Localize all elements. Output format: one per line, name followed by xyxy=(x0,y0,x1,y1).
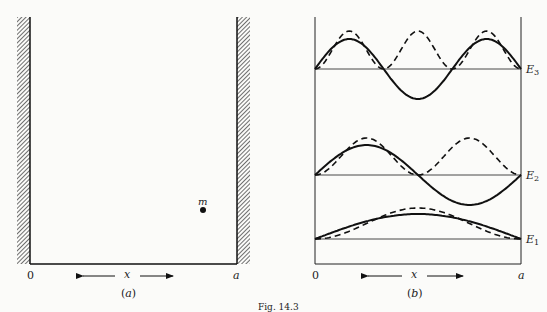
probability-e1 xyxy=(315,208,521,239)
probability-e3 xyxy=(315,31,521,69)
panel-a-caption: (a) xyxy=(121,288,136,299)
level-e1-label: E1 xyxy=(526,234,539,247)
panel-b-levels xyxy=(315,17,521,276)
panel-b-width-label: a xyxy=(518,270,525,281)
panel-a-well xyxy=(17,17,250,276)
panel-b-caption: (b) xyxy=(407,288,423,299)
right-wall-hatch xyxy=(237,17,250,264)
panel-a-x-label: x xyxy=(124,269,130,280)
panel-a-width-label: a xyxy=(233,270,240,281)
particle-dot xyxy=(200,207,206,213)
panel-b-origin-label: 0 xyxy=(312,270,319,281)
level-e3-label: E3 xyxy=(526,64,539,77)
particle-label: m xyxy=(198,197,207,207)
wavefunction-e1 xyxy=(315,214,521,239)
panel-a-origin-label: 0 xyxy=(27,270,34,281)
panel-a-letter: a xyxy=(125,287,132,300)
level-e2-label: E2 xyxy=(526,170,539,183)
probability-e2 xyxy=(315,138,521,175)
figure-caption: Fig. 14.3 xyxy=(258,303,299,312)
panel-b-x-label: x xyxy=(411,269,417,280)
left-wall-hatch xyxy=(17,17,30,264)
panel-b-letter: b xyxy=(411,287,418,300)
